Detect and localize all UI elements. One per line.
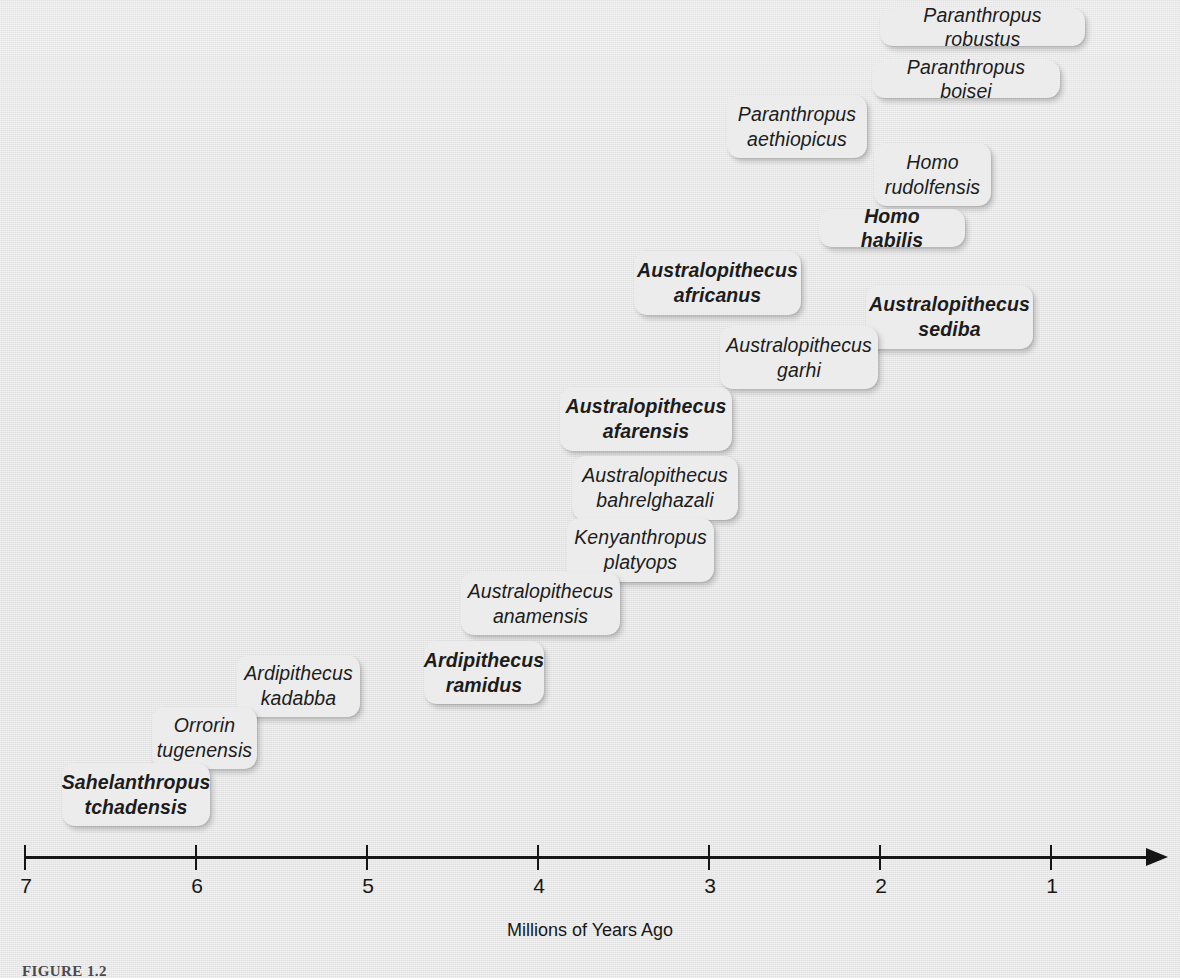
species-chip-paranthropus-aethiopicus: Paranthropus aethiopicus	[727, 95, 867, 158]
species-chip-ardipithecus-ramidus: Ardipithecus ramidus	[424, 641, 544, 704]
species-chip-australopithecus-garhi: Australopithecus garhi	[720, 326, 878, 389]
species-chip-australopithecus-anamensis: Australopithecus anamensis	[461, 572, 620, 635]
species-chip-australopithecus-bahrelghazali: Australopithecus bahrelghazali	[572, 456, 738, 520]
species-chip-paranthropus-boisei: Paranthropus boisei	[872, 60, 1060, 98]
species-chip-australopithecus-afarensis: Australopithecus afarensis	[560, 387, 732, 451]
figure-root: Paranthropus robustusParanthropus boisei…	[0, 0, 1180, 978]
figure-caption-label: FIGURE 1.2	[22, 963, 107, 978]
timeline-plot-area: Paranthropus robustusParanthropus boisei…	[0, 0, 1180, 978]
species-chip-homo-rudolfensis: Homo rudolfensis	[874, 143, 991, 206]
species-chip-ardipithecus-kadabba: Ardipithecus kadabba	[237, 655, 360, 717]
species-chip-australopithecus-africanus: Australopithecus africanus	[634, 251, 801, 315]
species-chip-homo-habilis: Homo habilis	[819, 209, 965, 247]
species-chip-sahelanthropus-tchadensis: Sahelanthropus tchadensis	[62, 763, 210, 826]
species-chip-orrorin-tugenensis: Orrorin tugenensis	[152, 707, 257, 769]
species-chip-australopithecus-sediba: Australopithecus sediba	[866, 285, 1033, 349]
species-chip-paranthropus-robustus: Paranthropus robustus	[880, 8, 1085, 46]
